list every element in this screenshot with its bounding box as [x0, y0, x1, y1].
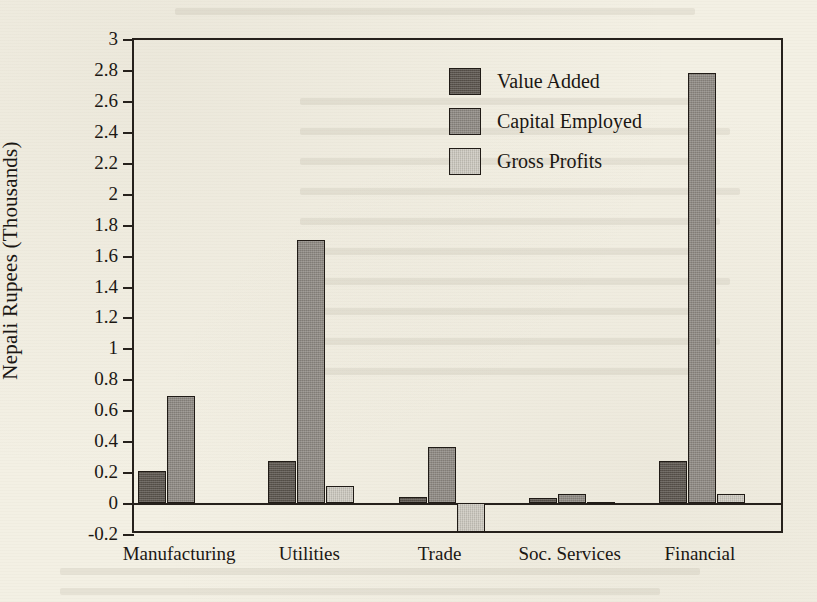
y-tick-mark [123, 194, 134, 196]
bar [428, 447, 456, 503]
bar [717, 494, 745, 503]
y-tick-label: 0.6 [94, 399, 118, 421]
y-tick-mark [123, 410, 134, 412]
y-tick-label: 1.8 [94, 214, 118, 236]
y-tick-label: 3 [109, 28, 119, 50]
bar [457, 503, 485, 532]
y-tick-mark [123, 39, 134, 41]
y-tick-mark [123, 70, 134, 72]
legend-swatch [449, 68, 481, 95]
y-tick-mark [123, 287, 134, 289]
y-tick-label: 0 [109, 492, 119, 514]
y-tick-mark [123, 256, 134, 258]
bar [399, 497, 427, 503]
y-tick-mark [123, 101, 134, 103]
bar [326, 486, 354, 503]
y-tick-label: 0.4 [94, 430, 118, 452]
x-axis-label: Trade [418, 543, 462, 565]
bar [529, 498, 557, 503]
legend-label: Gross Profits [497, 150, 602, 173]
legend-label: Value Added [497, 70, 600, 93]
legend-item: Capital Employed [449, 104, 642, 138]
y-tick-label: 1.6 [94, 245, 118, 267]
y-tick-mark [123, 503, 134, 505]
y-tick-mark [123, 163, 134, 165]
legend-item: Gross Profits [449, 144, 642, 178]
y-tick-label: 2 [109, 183, 119, 205]
y-tick-label: 1 [109, 337, 119, 359]
y-tick-mark [123, 225, 134, 227]
legend-item: Value Added [449, 64, 642, 98]
y-tick-label: 2.4 [94, 121, 118, 143]
bar [138, 471, 166, 503]
x-axis-label: Manufacturing [123, 543, 236, 565]
y-tick-mark [123, 472, 134, 474]
x-axis-label: Utilities [279, 543, 340, 565]
y-tick-label: -0.2 [88, 523, 118, 545]
bar [167, 396, 195, 503]
bar [558, 494, 586, 503]
y-tick-label: 2.2 [94, 152, 118, 174]
x-axis-label: Financial [665, 543, 736, 565]
chart-legend: Value AddedCapital EmployedGross Profits [449, 64, 642, 184]
y-tick-label: 2.6 [94, 90, 118, 112]
x-axis-label: Soc. Services [519, 543, 621, 565]
bar [688, 73, 716, 503]
y-tick-mark [123, 348, 134, 350]
bar-chart-figure: Nepali Rupees (Thousands) 32.82.62.42.22… [0, 0, 817, 602]
y-tick-mark [123, 132, 134, 134]
y-tick-mark [123, 379, 134, 381]
y-tick-label: 1.4 [94, 276, 118, 298]
bar [297, 240, 325, 503]
y-tick-mark [123, 441, 134, 443]
y-tick-mark [123, 317, 134, 319]
y-tick-mark [123, 534, 134, 536]
bar [659, 461, 687, 503]
bar [268, 461, 296, 503]
y-axis-title: Nepali Rupees (Thousands) [0, 0, 23, 541]
legend-label: Capital Employed [497, 110, 642, 133]
legend-swatch [449, 148, 481, 175]
y-tick-label: 2.8 [94, 59, 118, 81]
y-tick-label: 0.8 [94, 368, 118, 390]
legend-swatch [449, 108, 481, 135]
bar [587, 502, 615, 504]
y-tick-label: 0.2 [94, 461, 118, 483]
y-tick-label: 1.2 [94, 306, 118, 328]
